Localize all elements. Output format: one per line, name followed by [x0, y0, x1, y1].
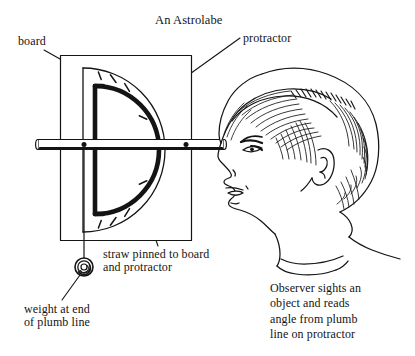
figure-canvas: An Astrolabe board protractor straw pinn…	[0, 0, 415, 356]
pin-upper	[82, 142, 87, 147]
leader-line-weight	[62, 275, 80, 300]
observer-head	[218, 68, 400, 275]
label-protractor: protractor	[243, 32, 291, 45]
weight-shape	[75, 258, 93, 276]
label-board: board	[18, 35, 46, 48]
caption-observer: Observer sights an object and reads angl…	[270, 281, 361, 342]
pin-outer	[184, 142, 189, 147]
straw-shape	[36, 140, 227, 150]
figure-title: An Astrolabe	[155, 13, 223, 27]
label-straw: straw pinned to board and protractor	[103, 248, 209, 275]
label-weight: weight at end of plumb line	[24, 303, 90, 330]
